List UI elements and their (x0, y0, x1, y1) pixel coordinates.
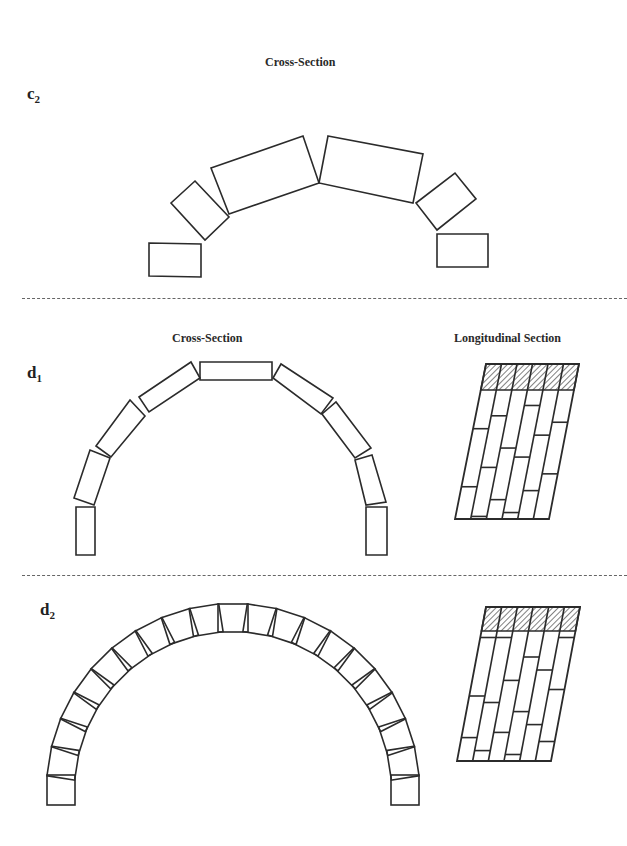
diagram-canvas (0, 0, 627, 846)
voussoir-stone (366, 507, 387, 555)
voussoir-stone (322, 402, 371, 458)
voussoir-stone (76, 507, 95, 555)
d1-longitudinal-section (455, 364, 579, 519)
voussoir-stone (273, 364, 333, 414)
d2-longitudinal-section (457, 607, 580, 761)
d1-cross-section-arch (74, 362, 387, 555)
voussoir-stone (211, 136, 319, 214)
voussoir-stone (437, 234, 488, 267)
voussoir-stone (74, 450, 110, 505)
voussoir-stone (416, 173, 476, 230)
voussoir-stone (355, 455, 386, 505)
d2-cross-section-arch (47, 604, 419, 805)
voussoir-stone (96, 400, 145, 457)
c2-cross-section-arch (149, 136, 488, 277)
voussoir-stone (200, 362, 272, 380)
voussoir-stone (139, 362, 200, 412)
voussoir-stone (319, 136, 423, 203)
voussoir-stone (149, 243, 201, 277)
